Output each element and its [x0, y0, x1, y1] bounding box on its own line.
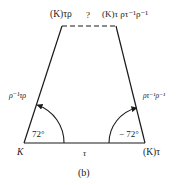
- left-side-label: ρ⁻¹τρ: [8, 91, 26, 100]
- top-right-vertex-label: (K)τ ρτ⁻¹ρ⁻¹: [102, 9, 148, 19]
- right-angle-label: − 72°: [119, 129, 139, 139]
- right-side-label: ρτ⁻¹ρ⁻¹: [142, 91, 166, 100]
- figure-caption: (b): [78, 167, 90, 179]
- trapezoid-diagram: (K)τρ ? (K)τ ρτ⁻¹ρ⁻¹ ρ⁻¹τρ ρτ⁻¹ρ⁻¹ 72° −…: [0, 0, 182, 185]
- left-angle-label: 72°: [32, 129, 45, 139]
- top-left-vertex-label: (K)τρ: [50, 9, 72, 20]
- right-edge: [116, 26, 145, 143]
- bottom-left-vertex-label: K: [16, 147, 24, 157]
- bottom-edge-label: τ: [83, 148, 87, 158]
- bottom-right-vertex-label: (K)τ: [143, 147, 160, 158]
- left-edge: [24, 26, 62, 143]
- top-question-label: ?: [86, 10, 90, 20]
